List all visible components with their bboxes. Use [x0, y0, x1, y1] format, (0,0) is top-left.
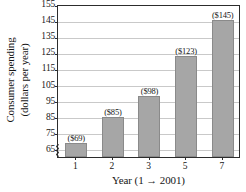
y-axis-tick-label: 75: [33, 129, 55, 139]
y-axis-title-line-1: Consumer spending: [4, 37, 18, 122]
bar[interactable]: [138, 96, 160, 157]
y-axis-tick-label: 145: [33, 16, 55, 26]
bar-value-label: ($85): [104, 108, 121, 117]
y-axis-tick-label: 135: [33, 32, 55, 42]
y-axis-tick-label: 115: [33, 64, 55, 74]
x-axis-tick-mark: [185, 157, 186, 160]
bar-value-label: ($145): [212, 11, 233, 20]
x-axis-tick-mark: [222, 157, 223, 160]
y-axis-tick-label: 85: [33, 113, 55, 123]
y-axis-title: Consumer spending (dollars per year): [0, 0, 34, 160]
bar[interactable]: [175, 56, 197, 157]
x-axis-tick-mark: [149, 157, 150, 160]
plot-area: ($69)($85)($98)($123)($145): [57, 5, 240, 158]
x-axis-tick-label: 3: [146, 161, 151, 171]
bar-slot: ($98): [131, 6, 168, 157]
y-axis-tick-label: 105: [33, 81, 55, 91]
bar-slot: ($123): [168, 6, 205, 157]
bar-slot: ($85): [95, 6, 132, 157]
bar[interactable]: [65, 143, 87, 157]
bar-series: ($69)($85)($98)($123)($145): [58, 6, 239, 157]
bar-chart-figure: Consumer spending (dollars per year) 155…: [0, 0, 246, 192]
bar[interactable]: [102, 117, 124, 157]
x-axis-tick-mark: [112, 157, 113, 160]
x-axis-tick-label: 5: [183, 161, 188, 171]
y-axis-tick-label: 155: [33, 0, 55, 10]
bar-slot: ($145): [204, 6, 241, 157]
bar-value-label: ($98): [141, 87, 158, 96]
bar-slot: ($69): [58, 6, 95, 157]
y-axis-tick-label: 95: [33, 97, 55, 107]
axis-break-icon: [53, 144, 62, 157]
bar[interactable]: [212, 20, 234, 157]
y-axis-tick-label: 125: [33, 48, 55, 58]
x-axis-tick-label: 2: [110, 161, 115, 171]
y-axis-tick-labels: 15514513512511510595857565: [31, 0, 55, 192]
x-axis-tick-labels: 12357: [57, 161, 240, 173]
y-axis-tick-label: 65: [33, 145, 55, 155]
x-axis-tick-mark: [75, 157, 76, 160]
x-axis-tick-label: 1: [73, 161, 78, 171]
bar-value-label: ($69): [68, 134, 85, 143]
x-axis-title: Year (1 → 2001): [57, 174, 240, 187]
y-axis-title-line-2: (dollars per year): [17, 37, 31, 122]
bar-value-label: ($123): [175, 47, 196, 56]
x-axis-tick-label: 7: [219, 161, 224, 171]
